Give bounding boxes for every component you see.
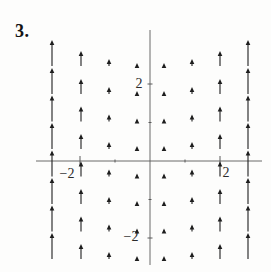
arrow-column-5 [190,59,195,259]
arrowhead-up-icon [162,146,167,151]
arrowhead-up-icon [218,134,223,139]
arrowhead-up-icon [50,123,55,128]
arrowhead-up-icon [190,252,195,257]
arrowhead-up-icon [218,107,223,112]
arrow-column-7 [246,40,251,259]
arrowhead-up-icon [107,197,112,202]
arrowhead-up-icon [79,244,84,249]
arrowhead-up-icon [50,206,55,211]
arrowhead-up-icon [246,178,251,183]
axes [36,30,262,265]
arrow-column-4 [162,63,167,261]
arrowhead-up-icon [246,40,251,45]
tick-label-x: 2 [223,165,230,180]
arrowhead-up-icon [190,59,195,64]
arrowhead-up-icon [107,170,112,175]
arrowhead-up-icon [135,201,140,206]
arrowhead-up-icon [135,91,140,96]
arrowhead-up-icon [135,174,140,179]
arrowhead-up-icon [107,142,112,147]
tick-label-x: −2 [60,166,75,181]
arrowhead-up-icon [218,162,223,167]
arrowhead-up-icon [218,51,223,56]
arrowhead-up-icon [135,119,140,124]
textbook-figure: 3. −222−2 [0,0,271,272]
arrowhead-up-icon [79,217,84,222]
arrow-column-6 [218,51,223,259]
arrowhead-up-icon [162,91,167,96]
arrowhead-up-icon [246,68,251,73]
arrowhead-up-icon [246,123,251,128]
arrowhead-up-icon [135,146,140,151]
arrowhead-up-icon [135,63,140,68]
arrowhead-up-icon [50,68,55,73]
arrowhead-up-icon [162,229,167,234]
arrowhead-up-icon [218,189,223,194]
arrowhead-up-icon [190,170,195,175]
arrowhead-up-icon [50,96,55,101]
arrowhead-up-icon [135,256,140,261]
arrowhead-up-icon [50,178,55,183]
arrowhead-up-icon [190,225,195,230]
arrowhead-up-icon [79,134,84,139]
arrowhead-up-icon [162,63,167,68]
arrowhead-up-icon [218,79,223,84]
arrowhead-up-icon [50,151,55,156]
arrowhead-up-icon [246,206,251,211]
arrowhead-up-icon [79,162,84,167]
arrowhead-up-icon [162,174,167,179]
arrowhead-up-icon [162,201,167,206]
arrowhead-up-icon [190,197,195,202]
arrowhead-up-icon [107,115,112,120]
direction-field-plot: −222−2 [0,0,271,272]
arrowhead-up-icon [162,256,167,261]
arrowhead-up-icon [246,96,251,101]
arrowhead-up-icon [218,244,223,249]
arrowhead-up-icon [246,151,251,156]
arrowhead-up-icon [79,189,84,194]
arrowhead-up-icon [246,233,251,238]
arrow-column-2 [107,59,112,259]
arrowhead-up-icon [107,225,112,230]
arrowhead-up-icon [190,115,195,120]
arrowhead-up-icon [107,87,112,92]
arrowhead-up-icon [50,40,55,45]
arrowhead-up-icon [50,233,55,238]
arrowhead-up-icon [79,51,84,56]
arrowhead-up-icon [107,252,112,257]
tick-label-y: 2 [136,76,143,91]
tick-labels: −222−2 [60,76,230,244]
arrowhead-up-icon [162,119,167,124]
arrowhead-up-icon [218,217,223,222]
arrow-column-1 [79,51,84,259]
arrow-column-0 [50,40,55,259]
arrowhead-up-icon [79,107,84,112]
arrowhead-up-icon [79,79,84,84]
arrowhead-up-icon [190,142,195,147]
arrowhead-up-icon [190,87,195,92]
arrowhead-up-icon [107,59,112,64]
